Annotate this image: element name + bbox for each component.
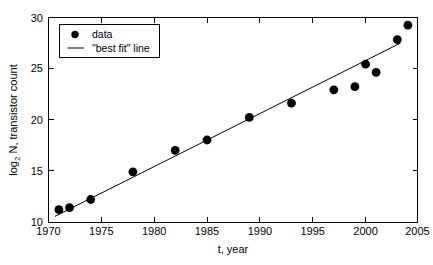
y-axis-title-rest: N, transistor count xyxy=(7,64,19,156)
data-point xyxy=(351,82,360,91)
legend-label-best-fit: "best fit" line xyxy=(92,42,150,54)
x-tick-label: 2000 xyxy=(353,225,377,237)
y-tick-label: 25 xyxy=(31,62,43,74)
data-point xyxy=(245,113,254,122)
y-tick-labels: 10 15 20 25 30 xyxy=(31,12,43,228)
data-point xyxy=(171,146,180,155)
data-point xyxy=(86,195,95,204)
data-point xyxy=(203,136,212,145)
x-tick-marks-top xyxy=(101,18,365,23)
best-fit-line xyxy=(55,43,401,216)
y-tick-label: 10 xyxy=(31,216,43,228)
chart-svg: 1970 1975 1980 1985 1990 1995 2000 2005 … xyxy=(0,0,433,265)
x-tick-labels: 1970 1975 1980 1985 1990 1995 2000 2005 xyxy=(36,225,429,237)
y-axis-title: log2 N, transistor count xyxy=(7,64,22,175)
data-point xyxy=(55,205,64,214)
x-tick-label: 1985 xyxy=(195,225,219,237)
x-tick-label: 1975 xyxy=(89,225,113,237)
data-point xyxy=(393,35,402,44)
data-point xyxy=(129,167,138,176)
transistor-count-chart: 1970 1975 1980 1985 1990 1995 2000 2005 … xyxy=(0,0,433,265)
y-axis-title-base: log xyxy=(7,161,19,176)
data-point xyxy=(404,21,413,30)
y-tick-marks xyxy=(49,18,54,223)
x-tick-label: 2005 xyxy=(405,225,429,237)
legend-label-data: data xyxy=(92,28,113,40)
y-tick-label: 30 xyxy=(31,12,43,24)
data-point xyxy=(329,85,338,94)
data-point xyxy=(287,99,296,108)
x-tick-label: 1995 xyxy=(300,225,324,237)
y-tick-label: 15 xyxy=(31,165,43,177)
y-tick-label: 20 xyxy=(31,114,43,126)
chart-legend: data "best fit" line xyxy=(60,25,160,58)
legend-marker-circle-icon xyxy=(71,31,78,38)
data-point xyxy=(65,203,74,212)
data-point xyxy=(361,60,370,69)
y-tick-marks-right xyxy=(413,68,418,171)
x-axis-title: t, year xyxy=(218,243,249,255)
data-point xyxy=(372,68,381,77)
x-tick-marks xyxy=(49,217,418,222)
x-tick-label: 1980 xyxy=(142,225,166,237)
x-tick-label: 1990 xyxy=(248,225,272,237)
svg-text:log2 N, transistor count: log2 N, transistor count xyxy=(7,64,22,175)
